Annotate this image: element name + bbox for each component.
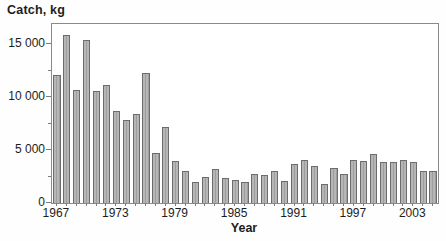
bar-1981 bbox=[192, 182, 199, 203]
x-tick-mark-2000 bbox=[383, 203, 384, 206]
bar-1987 bbox=[251, 174, 258, 203]
x-axis-label: Year bbox=[214, 221, 274, 235]
bar-1972 bbox=[103, 85, 110, 203]
bar-2003 bbox=[410, 162, 417, 203]
bar-1992 bbox=[301, 160, 308, 203]
bar-1969 bbox=[73, 90, 80, 203]
x-tick-label-1985: 1985 bbox=[212, 207, 256, 219]
bar-1983 bbox=[212, 169, 219, 203]
bar-1980 bbox=[182, 171, 189, 203]
bar-1990 bbox=[281, 181, 288, 203]
x-tick-label-1967: 1967 bbox=[34, 207, 78, 219]
x-tick-label-1997: 1997 bbox=[331, 207, 375, 219]
bar-1994 bbox=[321, 184, 328, 203]
y-tick-label-15000: 15 000 bbox=[3, 37, 45, 49]
x-tick-mark-1983 bbox=[214, 203, 215, 206]
bar-2004 bbox=[420, 171, 427, 203]
bar-2002 bbox=[400, 160, 407, 203]
x-tick-mark-1993 bbox=[313, 203, 314, 206]
plot-area bbox=[51, 23, 439, 204]
y-tick-mark bbox=[46, 43, 51, 44]
y-minor-tick-mark bbox=[48, 176, 51, 177]
y-tick-mark bbox=[46, 149, 51, 150]
y-minor-tick-mark bbox=[48, 123, 51, 124]
bar-1997 bbox=[350, 160, 357, 203]
bar-1979 bbox=[172, 161, 179, 203]
y-tick-label-5000: 5 000 bbox=[3, 143, 45, 155]
x-tick-mark-1976 bbox=[145, 203, 146, 206]
x-tick-mark-1982 bbox=[204, 203, 205, 206]
bar-1989 bbox=[271, 171, 278, 203]
catch-by-year-bar-chart: Catch, kg 05 00010 00015 000 19671973197… bbox=[0, 0, 446, 241]
bar-1991 bbox=[291, 164, 298, 203]
bar-1968 bbox=[63, 35, 70, 203]
x-tick-mark-1971 bbox=[96, 203, 97, 206]
chart-title: Catch, kg bbox=[7, 3, 65, 17]
bar-2000 bbox=[380, 162, 387, 203]
x-tick-mark-2005 bbox=[432, 203, 433, 206]
y-tick-mark bbox=[46, 202, 51, 203]
bar-2005 bbox=[429, 171, 436, 203]
x-tick-mark-1989 bbox=[274, 203, 275, 206]
bar-1978 bbox=[162, 127, 169, 203]
x-tick-label-1991: 1991 bbox=[271, 207, 315, 219]
bar-1988 bbox=[261, 175, 268, 203]
bar-1998 bbox=[360, 161, 367, 203]
x-tick-mark-1981 bbox=[195, 203, 196, 206]
bar-1970 bbox=[83, 40, 90, 203]
x-tick-mark-1977 bbox=[155, 203, 156, 206]
y-minor-tick-mark bbox=[48, 70, 51, 71]
bar-2001 bbox=[390, 162, 397, 203]
bar-1976 bbox=[142, 73, 149, 203]
bar-1986 bbox=[241, 182, 248, 203]
x-tick-mark-1970 bbox=[86, 203, 87, 206]
x-tick-mark-1987 bbox=[254, 203, 255, 206]
x-tick-label-1973: 1973 bbox=[93, 207, 137, 219]
x-tick-label-2003: 2003 bbox=[390, 207, 434, 219]
bar-1971 bbox=[93, 91, 100, 203]
bar-1982 bbox=[202, 177, 209, 203]
bar-1995 bbox=[330, 168, 337, 203]
x-tick-mark-1988 bbox=[264, 203, 265, 206]
y-tick-label-10000: 10 000 bbox=[3, 90, 45, 102]
x-tick-mark-1969 bbox=[76, 203, 77, 206]
x-tick-mark-1994 bbox=[323, 203, 324, 206]
bar-1973 bbox=[113, 111, 120, 203]
bar-1974 bbox=[123, 120, 130, 203]
y-tick-mark bbox=[46, 96, 51, 97]
x-tick-mark-1975 bbox=[135, 203, 136, 206]
bars-layer bbox=[52, 24, 438, 203]
bar-1977 bbox=[152, 153, 159, 203]
bar-1993 bbox=[311, 166, 318, 203]
bar-1984 bbox=[222, 178, 229, 203]
x-tick-mark-1999 bbox=[373, 203, 374, 206]
bar-1999 bbox=[370, 154, 377, 203]
bar-1985 bbox=[232, 180, 239, 203]
x-tick-mark-1995 bbox=[333, 203, 334, 206]
x-tick-label-1979: 1979 bbox=[153, 207, 197, 219]
bar-1967 bbox=[53, 75, 60, 203]
x-tick-mark-2001 bbox=[393, 203, 394, 206]
bar-1996 bbox=[340, 174, 347, 203]
bar-1975 bbox=[133, 114, 140, 203]
